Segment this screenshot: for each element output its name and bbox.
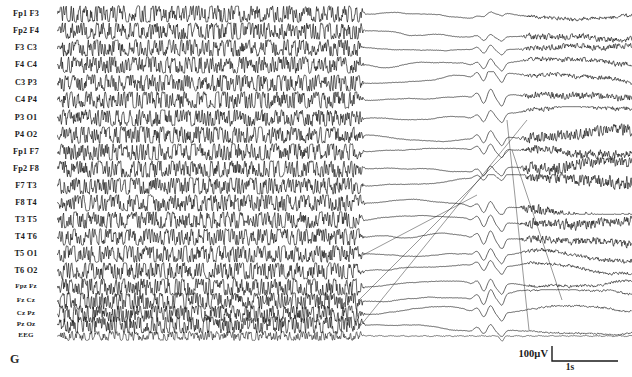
- eeg-trace-p3-o1: [57, 107, 632, 127]
- panel-letter: G: [10, 352, 19, 367]
- channel-label-p3-o1: P3 O1: [0, 114, 52, 122]
- channel-label-fp2-f8: Fp2 F8: [0, 165, 52, 173]
- channel-label-f7-t3: F7 T3: [0, 182, 52, 190]
- channel-label-f4-c4: F4 C4: [0, 61, 52, 69]
- eeg-trace-f8-t4: [57, 195, 632, 215]
- channel-label-fp1-f3: Fp1 F3: [0, 10, 52, 18]
- channel-label-t4-t6: T4 T6: [0, 233, 52, 241]
- eeg-trace-canvas: [57, 0, 632, 345]
- eeg-trace-f7-t3: [57, 175, 632, 195]
- channel-label-c4-p4: C4 P4: [0, 96, 52, 104]
- eeg-figure: Fp1 F3Fp2 F4F3 C3F4 C4C3 P3C4 P4P3 O1P4 …: [0, 0, 632, 377]
- channel-label-column: Fp1 F3Fp2 F4F3 C3F4 C4C3 P3C4 P4P3 O1P4 …: [0, 0, 57, 345]
- eeg-trace-fpz-fz: [57, 279, 632, 296]
- eeg-trace-t4-t6: [57, 229, 632, 249]
- calibration-scalebar: 100µV 1s: [492, 343, 632, 377]
- eeg-trace-area: [57, 0, 632, 345]
- channel-label-t6-o2: T6 O2: [0, 267, 52, 275]
- channel-label-fpz-fz: Fpz Fz: [0, 283, 52, 290]
- eeg-drift-artifact-2: [359, 150, 509, 300]
- channel-label-p4-o2: P4 O2: [0, 131, 52, 139]
- channel-label-fz-cz: Fz Cz: [0, 297, 52, 304]
- eeg-trace-t6-o2: [57, 261, 632, 280]
- channel-label-c3-p3: C3 P3: [0, 79, 52, 87]
- eeg-trace-fp1-f7: [57, 144, 632, 161]
- eeg-trace-fp2-f8: [57, 158, 632, 178]
- scalebar-amplitude-label: 100µV: [492, 348, 548, 359]
- scalebar-time-label: 1s: [540, 362, 600, 372]
- channel-label-pz-oz: Pz Oz: [0, 321, 52, 328]
- channel-label-t3-t5: T3 T5: [0, 216, 52, 224]
- scalebar-lshape: [552, 346, 618, 361]
- channel-label-cz-pz: Cz Pz: [0, 310, 52, 317]
- eeg-trace-c4-p4: [57, 89, 632, 108]
- channel-label-t5-o1: T5 O1: [0, 250, 52, 258]
- eeg-trace-fp2-f4: [57, 23, 632, 43]
- eeg-trace-t5-o1: [57, 246, 632, 264]
- channel-label-f3-c3: F3 C3: [0, 44, 52, 52]
- eeg-trace-f4-c4: [57, 57, 632, 74]
- eeg-drift-artifact-1: [357, 120, 527, 330]
- channel-label-fp1-f7: Fp1 F7: [0, 148, 52, 156]
- channel-label-f8-t4: F8 T4: [0, 199, 52, 207]
- channel-label-eeg: EEG: [0, 332, 52, 339]
- eeg-trace-p4-o2: [57, 124, 632, 146]
- channel-label-fp2-f4: Fp2 F4: [0, 27, 52, 35]
- eeg-trace-fp1-f3: [57, 6, 632, 23]
- eeg-drift-artifact-3: [363, 195, 477, 255]
- eeg-trace-f3-c3: [57, 40, 632, 57]
- eeg-trace-c3-p3: [57, 72, 632, 92]
- eeg-trace-cz-pz: [57, 305, 632, 322]
